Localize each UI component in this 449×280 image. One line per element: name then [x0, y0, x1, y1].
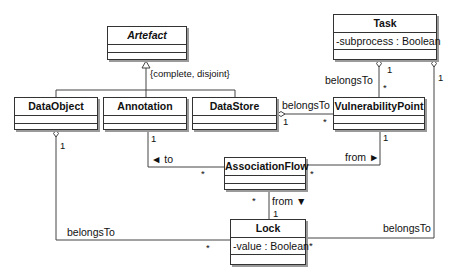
class-lock[interactable]: Lock -value : Boolean — [230, 219, 306, 265]
multiplicity: * — [252, 195, 256, 206]
association-label: belongsTo — [325, 74, 373, 86]
attributes-section — [334, 116, 424, 124]
multiplicity: 1 — [383, 132, 388, 143]
multiplicity: * — [383, 82, 387, 93]
multiplicity: 1 — [387, 64, 392, 75]
class-name: DataStore — [193, 98, 276, 116]
class-annotation[interactable]: Annotation — [103, 97, 187, 130]
class-task[interactable]: Task -subprocess : Boolean — [333, 14, 437, 60]
class-associationflow[interactable]: AssociationFlow — [224, 157, 306, 190]
class-name: Task — [334, 15, 436, 33]
generalization-constraint: {complete, disjoint} — [150, 68, 230, 79]
multiplicity: * — [201, 168, 205, 179]
operations-section — [108, 53, 186, 60]
class-name: Annotation — [104, 98, 186, 116]
operations-section — [15, 124, 97, 131]
association-label: ◄ to — [151, 153, 173, 165]
operations-section — [225, 184, 305, 191]
multiplicity: * — [310, 168, 314, 179]
operations-section — [334, 124, 424, 131]
attributes-section — [104, 116, 186, 124]
multiplicity: 1 — [60, 140, 65, 151]
class-vulnerabilitypoint[interactable]: VulnerabilityPoint — [333, 97, 425, 130]
operations-section — [104, 124, 186, 131]
multiplicity: 1 — [273, 208, 278, 219]
class-name: VulnerabilityPoint — [334, 98, 424, 116]
attributes-section — [15, 116, 97, 124]
operations-section — [231, 255, 305, 262]
class-datastore[interactable]: DataStore — [192, 97, 277, 130]
operations-section — [193, 124, 276, 131]
class-name: AssociationFlow — [225, 158, 305, 176]
multiplicity: * — [323, 116, 327, 127]
class-name: Lock — [231, 220, 305, 238]
attribute-value: -value : Boolean — [231, 238, 305, 255]
multiplicity: 1 — [151, 133, 156, 144]
association-label: from ▼ — [272, 195, 306, 207]
attributes-section — [225, 176, 305, 184]
attributes-section — [193, 116, 276, 124]
class-dataobject[interactable]: DataObject — [14, 97, 98, 130]
association-label: belongsTo — [67, 226, 115, 238]
association-label: belongsTo — [383, 222, 431, 234]
multiplicity: 1 — [283, 116, 288, 127]
operations-section — [334, 50, 436, 57]
uml-class-diagram: Artefact {complete, disjoint} DataObject… — [0, 0, 449, 280]
multiplicity: * — [206, 242, 210, 253]
class-name: DataObject — [15, 98, 97, 116]
association-label: from ► — [345, 151, 379, 163]
class-artefact[interactable]: Artefact — [107, 26, 187, 60]
attribute-subprocess: -subprocess : Boolean — [334, 33, 436, 50]
class-name: Artefact — [108, 27, 186, 45]
multiplicity: * — [309, 240, 313, 251]
multiplicity: 1 — [438, 72, 443, 83]
attributes-section — [108, 45, 186, 53]
association-label: belongsTo — [282, 99, 330, 111]
